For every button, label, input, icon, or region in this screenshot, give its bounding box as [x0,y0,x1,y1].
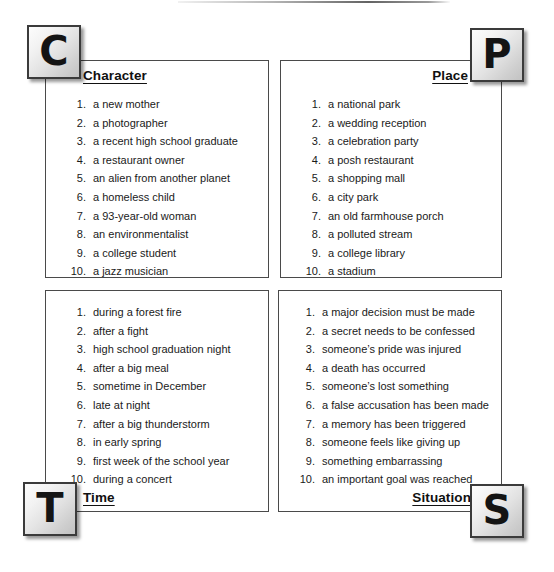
list-item-text: a photographer [93,114,168,133]
list-item: 9.something embarrassing [293,452,489,471]
list-item: 2.a wedding reception [299,114,444,133]
panel-situation-heading: Situation [412,490,471,505]
list-item-number: 2. [299,114,321,133]
list-item-number: 7. [293,415,315,434]
panel-time-heading: Time [83,490,115,505]
list-item-text: a polluted stream [328,225,412,244]
list-item-number: 1. [64,303,86,322]
list-item: 1.during a forest fire [64,303,231,322]
list-item-number: 10. [299,262,321,281]
list-item: 1.a national park [299,95,444,114]
panel-place-inner: Place 1.a national park2.a wedding recep… [281,61,501,277]
list-item-text: someone feels like giving up [322,433,460,452]
list-item: 6.a false accusation has been made [293,396,489,415]
place-item-list: 1.a national park2.a wedding reception3.… [299,95,444,281]
panel-situation-inner: 1.a major decision must be made2.a secre… [279,291,501,511]
list-item: 6.a city park [299,188,444,207]
panel-character-heading: Character [83,68,147,83]
list-item-text: a college library [328,244,405,263]
list-item-number: 7. [64,415,86,434]
list-item-text: an important goal was reached [322,470,472,489]
list-item-number: 8. [64,225,86,244]
list-item: 3.a recent high school graduate [64,132,238,151]
list-item-text: after a big meal [93,359,169,378]
list-item-number: 9. [64,244,86,263]
list-item: 1.a major decision must be made [293,303,489,322]
list-item-number: 3. [299,132,321,151]
corner-tile-place-letter: P [482,34,511,74]
list-item-text: a memory has been triggered [322,415,466,434]
corner-tile-character-letter: C [39,31,68,71]
list-item-text: during a forest fire [93,303,182,322]
list-item-number: 4. [64,359,86,378]
list-item-text: a recent high school graduate [93,132,238,151]
list-item-text: a shopping mall [328,169,405,188]
list-item-text: a stadium [328,262,376,281]
list-item-number: 8. [64,433,86,452]
panel-character-inner: Character 1.a new mother2.a photographer… [46,61,268,277]
list-item-text: a secret needs to be confessed [322,322,475,341]
list-item-number: 8. [293,433,315,452]
list-item: 5.an alien from another planet [64,169,238,188]
list-item: 4.a posh restaurant [299,151,444,170]
list-item: 4.after a big meal [64,359,231,378]
corner-tile-time-letter: T [36,488,63,528]
list-item-number: 3. [64,132,86,151]
list-item-number: 5. [64,377,86,396]
list-item: 7.after a big thunderstorm [64,415,231,434]
list-item: 8.an environmentalist [64,225,238,244]
list-item-number: 6. [64,396,86,415]
list-item-number: 1. [299,95,321,114]
list-item-number: 9. [64,452,86,471]
corner-tile-situation: S [470,484,524,538]
list-item: 9.first week of the school year [64,452,231,471]
list-item-text: an alien from another planet [93,169,230,188]
panel-place: Place 1.a national park2.a wedding recep… [280,60,502,278]
list-item-number: 4. [64,151,86,170]
list-item-number: 5. [293,377,315,396]
panel-time: 1.during a forest fire2.after a fight3.h… [45,290,269,512]
list-item: 3.high school graduation night [64,340,231,359]
list-item-text: a city park [328,188,378,207]
list-item-text: high school graduation night [93,340,231,359]
list-item-text: a national park [328,95,400,114]
list-item-number: 7. [299,207,321,226]
list-item-text: a posh restaurant [328,151,414,170]
list-item-text: someone’s lost something [322,377,449,396]
list-item: 5.someone’s lost something [293,377,489,396]
panel-time-inner: 1.during a forest fire2.after a fight3.h… [46,291,268,511]
list-item: 3.a celebration party [299,132,444,151]
list-item-text: a wedding reception [328,114,426,133]
list-item-number: 3. [64,340,86,359]
list-item: 7.a 93-year-old woman [64,207,238,226]
list-item: 5.sometime in December [64,377,231,396]
list-item: 10.a jazz musician [64,262,238,281]
list-item-text: sometime in December [93,377,206,396]
list-item-text: during a concert [93,470,172,489]
list-item-number: 4. [293,359,315,378]
list-item: 10.a stadium [299,262,444,281]
list-item-number: 6. [293,396,315,415]
list-item: 10.during a concert [64,470,231,489]
list-item-text: an old farmhouse porch [328,207,444,226]
list-item-text: someone’s pride was injured [322,340,461,359]
top-edge-artifact-line [178,1,450,3]
list-item-number: 2. [64,114,86,133]
time-item-list: 1.during a forest fire2.after a fight3.h… [64,303,231,489]
list-item: 4.a restaurant owner [64,151,238,170]
corner-tile-place: P [470,28,524,82]
list-item-number: 10. [64,262,86,281]
panel-character: Character 1.a new mother2.a photographer… [45,60,269,278]
situation-item-list: 1.a major decision must be made2.a secre… [293,303,489,489]
story-elements-chart: Character 1.a new mother2.a photographer… [0,0,554,572]
corner-tile-time: T [23,482,77,536]
list-item-number: 6. [299,188,321,207]
list-item: 6.a homeless child [64,188,238,207]
list-item-number: 7. [64,207,86,226]
list-item-text: late at night [93,396,150,415]
list-item: 7.an old farmhouse porch [299,207,444,226]
list-item-number: 1. [293,303,315,322]
corner-tile-character: C [27,25,81,79]
list-item-number: 6. [64,188,86,207]
list-item-text: after a big thunderstorm [93,415,210,434]
